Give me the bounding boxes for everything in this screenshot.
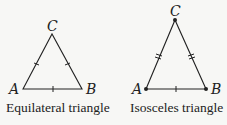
vertex-label-a: A bbox=[7, 81, 19, 97]
equilateral-triangle: C A B Equilateral triangle bbox=[6, 18, 110, 115]
triangles-diagram: C A B Equilateral triangle C A B Isoscel… bbox=[0, 0, 227, 125]
vertex-label-c: C bbox=[47, 18, 58, 34]
double-tick-ac-2 bbox=[155, 57, 161, 59]
vertex-label-a-iso: A bbox=[130, 81, 142, 97]
equilateral-triangle-shape bbox=[23, 34, 82, 89]
vertex-label-b: B bbox=[85, 81, 96, 97]
vertex-dot-a bbox=[144, 87, 148, 91]
isosceles-triangle-shape bbox=[146, 20, 206, 89]
vertex-dot-b bbox=[204, 87, 208, 91]
vertex-label-c-iso: C bbox=[170, 3, 181, 19]
isosceles-triangle: C A B Isosceles triangle bbox=[130, 3, 223, 115]
vertex-label-b-iso: B bbox=[210, 81, 221, 97]
caption-isosceles: Isosceles triangle bbox=[130, 100, 223, 115]
caption-equilateral: Equilateral triangle bbox=[6, 100, 110, 115]
